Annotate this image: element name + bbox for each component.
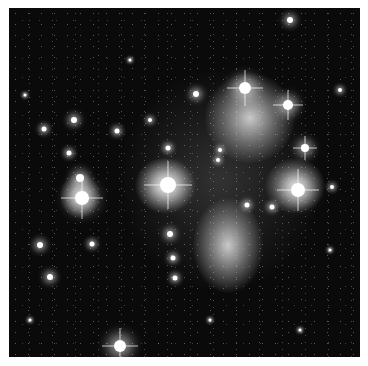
star <box>239 82 251 94</box>
star <box>218 148 222 152</box>
star <box>114 340 126 352</box>
star <box>67 151 72 156</box>
star <box>299 329 302 332</box>
star <box>270 205 275 210</box>
star <box>166 146 171 151</box>
star <box>90 242 95 247</box>
star <box>129 59 132 62</box>
star <box>29 319 32 322</box>
star <box>167 231 173 237</box>
star <box>47 274 53 280</box>
star <box>329 249 332 252</box>
star <box>115 129 120 134</box>
star <box>71 117 77 123</box>
star <box>160 177 176 193</box>
star <box>42 127 47 132</box>
star <box>283 100 293 110</box>
star <box>330 185 334 189</box>
star <box>287 17 293 23</box>
star <box>338 88 342 92</box>
star <box>193 91 199 97</box>
star <box>76 174 84 182</box>
star <box>216 158 220 162</box>
star <box>209 319 212 322</box>
star <box>171 256 176 261</box>
star <box>148 118 152 122</box>
star <box>37 242 43 248</box>
star <box>291 183 305 197</box>
star <box>24 94 27 97</box>
pleiades-photo <box>9 8 360 357</box>
star <box>75 191 89 205</box>
star <box>173 276 178 281</box>
star <box>301 144 309 152</box>
star <box>245 203 250 208</box>
